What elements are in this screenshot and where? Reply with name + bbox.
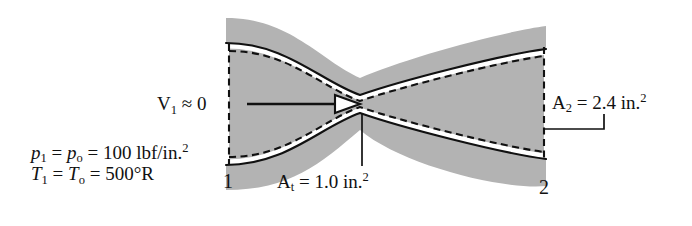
station-label-1: 1 [223,170,233,193]
exit-area-label: A2 = 2.4 in.2 [552,91,647,115]
nozzle-figure: V1 ≈ 0 p1 = po = 100 lbf/in.2 T1 = To = … [0,0,692,226]
inlet-velocity-relation: ≈ [182,93,192,114]
inlet-pressure-unit: lbf/in. [136,142,182,163]
inlet-temperature-equals-2: = [90,163,101,184]
inlet-temperature-label: T1 = To = 500°R [31,163,154,187]
inlet-temperature-unit: °R [134,163,154,184]
exit-area-value: 2.4 [592,92,616,113]
throat-area-exponent: 2 [362,170,368,184]
stagnation-temperature-symbol: T [68,163,79,184]
inlet-pressure-exponent: 2 [182,141,188,155]
exit-area-subscript: 2 [566,101,572,115]
inlet-temperature-symbol: T [31,163,42,184]
station-label-2: 2 [539,176,549,199]
exit-area-symbol: A [552,92,566,113]
inlet-pressure-equals-1: = [52,142,63,163]
throat-area-label: At = 1.0 in.2 [277,170,369,194]
throat-area-subscript: t [291,180,294,194]
throat-area-symbol: A [277,171,291,192]
exit-area-equals: = [577,92,588,113]
inlet-pressure-symbol: p [31,142,41,163]
inlet-pressure-label: p1 = po = 100 lbf/in.2 [31,141,188,165]
inlet-velocity-symbol: V [157,93,171,114]
throat-area-equals: = [299,171,310,192]
inlet-temperature-subscript-2: o [79,173,85,187]
inlet-pressure-equals-2: = [88,142,99,163]
inlet-temperature-equals-1: = [53,163,64,184]
inlet-temperature-value: 500 [105,163,134,184]
exit-area-leader-line [545,114,604,129]
inlet-velocity-label: V1 ≈ 0 [157,93,206,117]
exit-area-exponent: 2 [640,91,646,105]
inlet-pressure-value: 100 [103,142,132,163]
inlet-velocity-subscript: 1 [171,103,177,117]
exit-area-unit: in. [621,92,641,113]
throat-area-unit: in. [343,171,363,192]
throat-area-value: 1.0 [314,171,338,192]
inlet-velocity-value: 0 [197,93,207,114]
inlet-temperature-subscript-1: 1 [42,173,48,187]
